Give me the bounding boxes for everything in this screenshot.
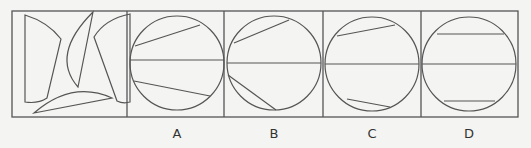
option-label-d: D	[459, 126, 479, 141]
right-piece	[94, 14, 130, 103]
option-d[interactable]	[422, 17, 516, 111]
crescent-piece	[67, 12, 93, 87]
bottom-segment-piece	[34, 92, 112, 113]
chord-line	[337, 25, 395, 36]
chord-line	[234, 20, 289, 43]
option-b[interactable]	[227, 16, 321, 110]
option-c[interactable]	[325, 17, 419, 111]
option-a[interactable]	[130, 16, 224, 110]
question-panel-pieces	[25, 12, 130, 113]
option-label-c: C	[362, 126, 382, 141]
chord-line	[347, 99, 390, 107]
chord-line	[134, 81, 210, 96]
option-label-a: A	[167, 126, 187, 141]
option-label-b: B	[264, 126, 284, 141]
left-piece	[25, 15, 61, 103]
